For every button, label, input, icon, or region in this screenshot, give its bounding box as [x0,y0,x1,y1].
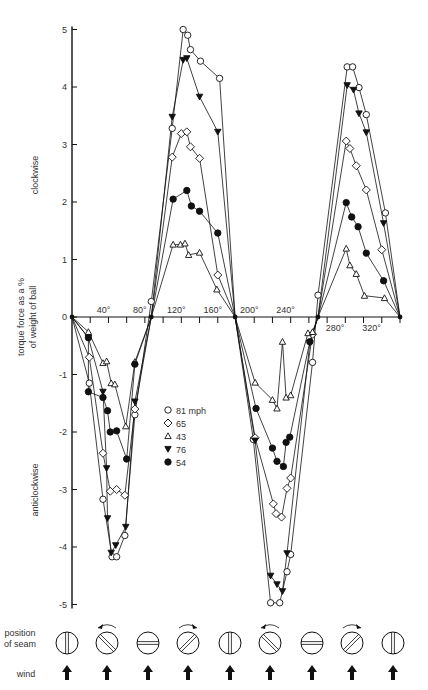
data-point-76 [169,114,175,120]
legend-marker [164,419,172,427]
data-point-43 [103,358,109,364]
y-tick-label: -5 [59,600,67,610]
data-point-43 [123,423,129,429]
legend-label: 81 mph [176,406,206,416]
y-tick-label: 5 [62,25,67,35]
x-tick-label: 120° [167,305,186,315]
legend-marker [165,433,171,439]
series-line-43 [72,243,400,426]
y-tick-label: -1 [59,370,67,380]
clockwise-label: clockwise [30,156,40,195]
data-point-54 [196,208,202,214]
data-point-54 [188,203,194,209]
data-point-54 [113,428,119,434]
data-point-54 [269,445,275,451]
ball-outline [137,632,159,654]
ball-7 [301,632,323,680]
y-tick-label: 4 [62,82,67,92]
x-tick-label: 80° [133,305,147,315]
data-point-43 [353,271,359,277]
series-line-76 [72,58,400,591]
up-arrow-icon [143,665,153,680]
data-point-81-mph [86,380,92,386]
zero-crossing-point [316,315,321,320]
data-point-54 [104,408,110,414]
data-point-76 [363,130,369,136]
torque-chart: THE BOWLER'S ART 543210-1-2-3-4-540°80°1… [0,0,428,690]
ball-outline [56,632,78,654]
data-point-65 [346,145,354,153]
ball-1 [56,632,78,680]
series-markers [70,26,403,606]
data-point-81-mph [180,26,186,32]
data-point-65 [269,500,277,508]
data-point-65 [186,143,194,151]
data-point-54 [253,405,259,411]
legend-label: 43 [176,432,186,442]
x-tick-label: 40° [97,305,111,315]
data-point-76 [350,87,356,93]
position-label-line1: position [4,628,35,638]
data-point-81-mph [382,210,388,216]
data-point-54 [170,196,176,202]
up-arrow-icon [225,665,235,680]
ball-outline [382,632,404,654]
data-point-81-mph [100,496,106,502]
ball-5 [219,632,241,680]
data-point-65 [352,162,360,170]
data-point-54 [85,335,91,341]
ball-outline [341,632,363,654]
data-point-43 [196,249,202,255]
data-point-65 [131,405,139,413]
zero-crossing-point [233,315,238,320]
y-tick-label: -2 [59,427,67,437]
x-tick-label: 160° [203,305,222,315]
data-point-76 [380,221,386,227]
data-point-81-mph [277,600,283,606]
data-point-54 [107,429,113,435]
ball-8 [341,624,363,680]
data-point-54 [100,394,106,400]
ball-3 [137,632,159,680]
data-point-54 [85,389,91,395]
data-point-54 [307,339,313,345]
legend-label: 76 [176,445,186,455]
legend-label: 54 [176,458,186,468]
y-tick-label: -4 [59,542,67,552]
up-arrow-icon [102,665,112,680]
ball-outline [219,632,241,654]
data-point-81-mph [148,298,154,304]
position-label-line2: of seam [4,639,36,649]
ball-6 [259,624,281,680]
data-point-43 [214,286,220,292]
ball-outline [301,632,323,654]
data-point-76 [356,111,362,117]
data-point-65 [85,353,93,361]
legend-marker [165,459,171,465]
data-point-54 [355,224,361,230]
data-point-43 [347,262,353,268]
data-point-43 [274,405,280,411]
y-tick-label: 3 [62,140,67,150]
seam-position-strip: position of seam wind [4,624,404,680]
data-point-54 [349,214,355,220]
data-point-54 [274,458,280,464]
legend-label: 65 [176,419,186,429]
data-point-81-mph [315,292,321,298]
up-arrow-icon [307,665,317,680]
ball-4 [177,624,199,680]
data-point-65 [378,246,386,254]
x-tick-label: 240° [276,305,295,315]
up-arrow-icon [265,665,275,680]
up-arrow-icon [347,665,357,680]
data-point-76 [113,543,119,549]
data-point-81-mph [349,64,355,70]
data-point-65 [106,487,114,495]
data-point-43 [343,245,349,251]
arrowhead-icon [261,624,266,629]
up-arrow-icon [183,665,193,680]
data-point-43 [279,339,285,345]
data-point-54 [184,187,190,193]
y-tick-label: 1 [62,255,67,265]
legend: 81 mph65437654 [164,406,206,468]
